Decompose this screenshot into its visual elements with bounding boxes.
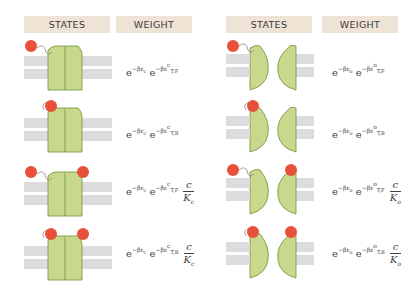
closed-state-row-1 <box>24 40 112 90</box>
weight-formula-closed-4: e−βεc e−βεcT,B cKc <box>126 242 194 267</box>
open-state-row-4 <box>226 226 314 278</box>
weight-formula-open-3: e−βεo e−βεoT,F cKo <box>332 180 401 205</box>
weight-formula-closed-1: e−βεc e−βεcT,F <box>126 64 178 78</box>
free-ligand-icon <box>285 164 297 176</box>
concentration-fraction: cKo <box>390 180 401 205</box>
tether-ligand-icon <box>45 228 57 240</box>
weight-formula-closed-2: e−βεc e−βεcT,B <box>126 126 178 140</box>
concentration-fraction: cKo <box>390 242 401 267</box>
tether-ligand-icon <box>25 166 37 178</box>
tether-ligand-icon <box>25 40 37 52</box>
open-state-row-3 <box>226 164 314 214</box>
tether-ligand-icon <box>247 226 259 238</box>
closed-state-row-2 <box>24 100 112 152</box>
open-state-row-2 <box>226 100 314 152</box>
weight-formula-open-2: e−βεo e−βεoT,B <box>332 126 385 140</box>
weight-formula-open-4: e−βεo e−βεoT,B cKo <box>332 242 401 267</box>
weight-formula-open-1: e−βεo e−βεoT,F <box>332 64 385 78</box>
tether-ligand-icon <box>45 100 57 112</box>
free-ligand-icon <box>77 228 89 240</box>
concentration-fraction: cKc <box>184 242 195 267</box>
free-ligand-icon <box>285 226 297 238</box>
tether-ligand-icon <box>227 40 239 52</box>
closed-state-row-3 <box>24 166 112 216</box>
free-ligand-icon <box>77 166 89 178</box>
closed-state-row-4 <box>24 228 112 280</box>
tether-ligand-icon <box>247 100 259 112</box>
weight-formula-closed-3: e−βεc e−βεcT,F cKc <box>126 180 194 205</box>
concentration-fraction: cKc <box>183 180 194 205</box>
open-state-row-1 <box>226 40 314 90</box>
tether-ligand-icon <box>227 164 239 176</box>
